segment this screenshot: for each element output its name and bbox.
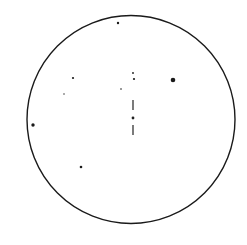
star [133, 78, 135, 80]
star-field-svg [0, 0, 247, 245]
star [31, 123, 34, 126]
star [72, 77, 74, 79]
star [171, 78, 176, 83]
star-chart [0, 0, 247, 245]
field-of-view-circle [27, 16, 235, 224]
target-star [132, 117, 135, 120]
stars-group [31, 22, 175, 169]
star [117, 22, 119, 24]
star [80, 166, 83, 169]
star [120, 88, 122, 90]
star [132, 72, 134, 74]
star [63, 93, 64, 94]
target-marker [132, 100, 135, 135]
